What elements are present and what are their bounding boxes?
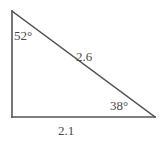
- triangle-figure: 52° 2.6 38° 2.1 6: [0, 0, 163, 145]
- side-label-base: 2.1: [58, 124, 74, 137]
- triangle-hypotenuse: [12, 11, 155, 117]
- triangle-outline: [0, 0, 163, 145]
- angle-label-bottom-right: 38°: [110, 99, 128, 112]
- angle-label-top: 52°: [14, 29, 32, 42]
- side-label-hypotenuse: 2.6: [76, 50, 92, 63]
